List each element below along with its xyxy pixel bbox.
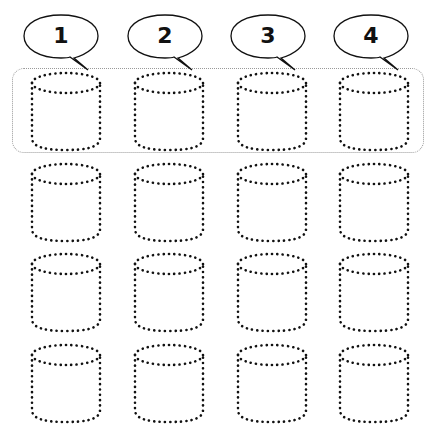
cylinder-outline-icon: [336, 70, 412, 154]
speech-bubble-1: 1: [22, 14, 100, 66]
dotted-cylinder-r3-c3: [234, 251, 310, 335]
cylinder-outline-icon: [131, 161, 207, 245]
cylinder-outline-icon: [131, 342, 207, 425]
dotted-cylinder-r2-c2: [131, 161, 207, 245]
bubble-label: 2: [126, 23, 204, 48]
dotted-cylinder-r1-c4: [336, 70, 412, 154]
cylinder-outline-icon: [336, 251, 412, 335]
cylinder-outline-icon: [336, 342, 412, 425]
cylinder-outline-icon: [131, 70, 207, 154]
cylinder-outline-icon: [336, 161, 412, 245]
speech-bubble-2: 2: [126, 14, 204, 66]
dotted-cylinder-r3-c2: [131, 251, 207, 335]
cylinder-outline-icon: [28, 70, 104, 154]
cylinder-outline-icon: [28, 251, 104, 335]
dotted-cylinder-r3-c1: [28, 251, 104, 335]
bubble-label: 3: [229, 23, 307, 48]
dotted-cylinder-r4-c2: [131, 342, 207, 425]
bubble-label: 4: [332, 23, 410, 48]
cylinder-outline-icon: [234, 70, 310, 154]
cylinder-outline-icon: [28, 161, 104, 245]
dotted-cylinder-r3-c4: [336, 251, 412, 335]
cylinder-outline-icon: [28, 342, 104, 425]
dotted-cylinder-r4-c4: [336, 342, 412, 425]
dotted-cylinder-r4-c3: [234, 342, 310, 425]
bubble-label: 1: [22, 23, 100, 48]
speech-bubble-3: 3: [229, 14, 307, 66]
dotted-cylinder-r1-c1: [28, 70, 104, 154]
cylinder-outline-icon: [234, 342, 310, 425]
cylinder-outline-icon: [234, 161, 310, 245]
cylinder-outline-icon: [234, 251, 310, 335]
dotted-cylinder-r1-c3: [234, 70, 310, 154]
speech-bubble-4: 4: [332, 14, 410, 66]
dotted-cylinder-r2-c4: [336, 161, 412, 245]
cylinder-outline-icon: [131, 251, 207, 335]
dotted-cylinder-r2-c3: [234, 161, 310, 245]
dotted-cylinder-r2-c1: [28, 161, 104, 245]
dotted-cylinder-r4-c1: [28, 342, 104, 425]
dotted-cylinder-r1-c2: [131, 70, 207, 154]
